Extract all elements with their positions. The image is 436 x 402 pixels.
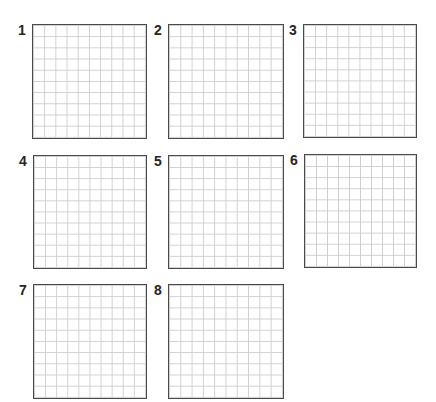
empty-grid [33, 155, 147, 269]
panel-label: 6 [290, 153, 298, 167]
empty-grid [168, 284, 284, 399]
empty-grid [32, 24, 147, 139]
empty-grid [303, 24, 417, 138]
panel-label: 7 [19, 283, 27, 297]
panel-label: 8 [154, 283, 162, 297]
panel-label: 5 [154, 154, 162, 168]
panel-label: 3 [289, 23, 297, 37]
empty-grid [33, 284, 147, 399]
empty-grid [168, 24, 284, 139]
empty-grid [304, 154, 417, 268]
panel-label: 2 [154, 23, 162, 37]
panel-label: 1 [18, 23, 26, 37]
panel-label: 4 [19, 154, 27, 168]
empty-grid [168, 155, 284, 269]
